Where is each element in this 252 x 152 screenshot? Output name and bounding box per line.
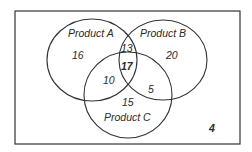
label-product-b: Product B: [140, 27, 186, 39]
value-a-only: 16: [72, 49, 84, 61]
value-a-b-c: 17: [121, 60, 134, 72]
universe-rectangle: [15, 11, 240, 144]
venn-diagram: Product A Product B Product C 16 20 15 1…: [0, 0, 252, 152]
value-a-b: 13: [121, 42, 133, 54]
label-product-a: Product A: [68, 27, 114, 39]
value-a-c: 10: [103, 74, 115, 86]
label-product-c: Product C: [104, 111, 151, 123]
value-b-c: 5: [148, 83, 154, 95]
value-outside: 4: [208, 122, 215, 134]
value-c-only: 15: [122, 96, 134, 108]
value-b-only: 20: [165, 49, 178, 61]
